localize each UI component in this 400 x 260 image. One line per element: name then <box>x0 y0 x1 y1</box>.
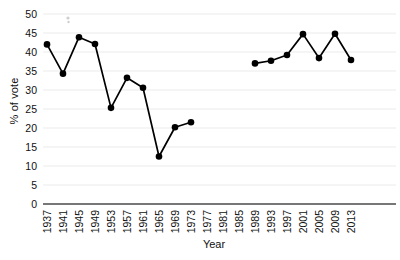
data-point-marker <box>332 30 339 37</box>
data-point-marker <box>92 41 99 48</box>
y-axis-tick-label: 40 <box>25 46 37 58</box>
data-point-marker <box>252 60 259 67</box>
x-axis-tick-label: 1953 <box>105 210 117 234</box>
data-point-marker <box>268 57 275 64</box>
x-axis-tick-label: 1977 <box>201 210 213 234</box>
x-axis-tick-label: 2009 <box>329 210 341 234</box>
data-point-marker <box>60 70 67 77</box>
y-axis-tick-label: 35 <box>25 65 37 77</box>
x-axis-tick-label: 1965 <box>153 210 165 234</box>
y-axis-tick-label: 50 <box>25 8 37 20</box>
x-axis-tick-label: 1993 <box>265 210 277 234</box>
y-axis-tick-label: 45 <box>25 27 37 39</box>
data-point-marker <box>76 34 83 41</box>
y-axis-tick-labels: 05101520253035404550 <box>25 8 37 210</box>
x-axis-tick-label: 2013 <box>345 210 357 234</box>
x-axis-tick-label: 1989 <box>249 210 261 234</box>
data-point-marker <box>124 75 131 82</box>
x-axis-tick-label: 1985 <box>233 210 245 234</box>
data-point-marker <box>348 57 355 64</box>
chart-container: % of vote Year 05101520253035404550 1937… <box>0 0 400 260</box>
y-axis-tick-label: 15 <box>25 141 37 153</box>
stray-speck-artifact <box>66 16 69 19</box>
y-axis-tick-label: 20 <box>25 122 37 134</box>
y-axis-tick-label: 30 <box>25 84 37 96</box>
x-axis-tick-label: 2005 <box>313 210 325 234</box>
x-axis-tick-label: 1981 <box>217 210 229 234</box>
y-axis-tick-label: 5 <box>31 179 37 191</box>
data-point-marker <box>156 153 163 160</box>
x-axis-tick-label: 1937 <box>41 210 53 234</box>
data-point-marker <box>300 31 307 38</box>
data-point-marker <box>108 105 115 112</box>
stray-speck-artifact-2 <box>67 21 69 23</box>
x-axis-tick-label: 2001 <box>297 210 309 234</box>
line-chart-plot: 05101520253035404550 1937194119451949195… <box>0 0 400 260</box>
series-line <box>47 37 191 156</box>
x-axis-tick-labels: 1937194119451949195319571961196519691973… <box>41 210 357 234</box>
x-axis-tick-label: 1961 <box>137 210 149 234</box>
y-axis-tick-label: 25 <box>25 103 37 115</box>
data-point-marker <box>140 84 147 91</box>
x-axis-tick-label: 1941 <box>57 210 69 234</box>
data-point-marker <box>188 119 195 126</box>
data-point-marker <box>44 41 51 48</box>
y-axis-tick-label: 0 <box>31 198 37 210</box>
data-point-marker <box>172 124 179 131</box>
series-markers-group <box>44 30 355 159</box>
data-point-marker <box>284 52 291 59</box>
x-axis-tick-label: 1957 <box>121 210 133 234</box>
y-axis-tick-label: 10 <box>25 160 37 172</box>
x-axis-tick-label: 1997 <box>281 210 293 234</box>
x-axis-tick-label: 1969 <box>169 210 181 234</box>
data-point-marker <box>316 55 323 62</box>
gridlines-group <box>43 14 396 185</box>
x-axis-tick-label: 1973 <box>185 210 197 234</box>
x-axis-tick-label: 1945 <box>73 210 85 234</box>
x-axis-tick-label: 1949 <box>89 210 101 234</box>
